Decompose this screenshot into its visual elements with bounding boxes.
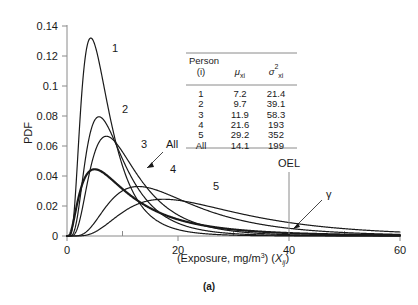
gamma-annotation: γ — [293, 188, 332, 229]
stats-table: Person (i) μxi σ2xi 17.221.429.739.1311.… — [186, 53, 297, 151]
table-cell-mu-5: 14.1 — [231, 140, 250, 151]
x-axis-title-mid: ) ( — [265, 252, 276, 264]
oel-marker: OEL — [278, 157, 300, 234]
table-cell-person-5: All — [196, 140, 207, 151]
all-leader-arrow — [147, 162, 154, 168]
table-header-mu-sub: xi — [240, 72, 246, 79]
x-tick-0: 0 — [64, 244, 70, 256]
curve-label-all: All — [166, 138, 178, 150]
y-tick-2: 0.04 — [37, 170, 58, 182]
table-header-sigma: σ2xi — [269, 63, 284, 79]
curve-label-5: 5 — [213, 180, 219, 192]
y-tick-5: 0.1 — [43, 80, 58, 92]
y-tick-0: 0 — [52, 230, 58, 242]
table-header-person-line2: (i) — [197, 66, 205, 77]
y-tick-labels: 00.020.040.060.080.10.120.14 — [37, 20, 58, 242]
x-axis-title-main: (Exposure, mg/m — [177, 252, 261, 264]
y-tick-1: 0.02 — [37, 200, 58, 212]
pdf-curve-all — [67, 169, 400, 236]
y-tick-6: 0.12 — [37, 50, 58, 62]
table-header-person-line1: Person — [189, 55, 219, 66]
curve-label-2: 2 — [122, 103, 128, 115]
oel-label: OEL — [278, 157, 300, 169]
y-axis-title: PDF — [22, 122, 34, 144]
y-tick-7: 0.14 — [37, 20, 58, 32]
y-tick-3: 0.06 — [37, 140, 58, 152]
table-header-mu: μxi — [234, 66, 246, 79]
pdf-chart: 00.020.040.060.080.10.120.14 0204060 PDF… — [0, 0, 418, 305]
gamma-label: γ — [326, 188, 332, 200]
x-tick-3: 60 — [394, 244, 406, 256]
y-tick-4: 0.08 — [37, 110, 58, 122]
table-cell-var-5: 199 — [268, 140, 284, 151]
figure-caption: (a) — [203, 281, 215, 292]
pdf-curve-3 — [67, 136, 400, 236]
curve-label-3: 3 — [141, 138, 147, 150]
x-axis-title: (Exposure, mg/m3) (Xij) — [177, 252, 289, 267]
table-header-sigma-sup: 2 — [274, 63, 278, 70]
x-axis-title-end: ) — [285, 252, 289, 264]
figure-container: 00.020.040.060.080.10.120.14 0204060 PDF… — [0, 0, 418, 305]
curve-label-4: 4 — [170, 163, 176, 175]
curve-label-1: 1 — [112, 42, 118, 54]
table-header-sigma-sub: xi — [278, 72, 284, 79]
table-rows: 17.221.429.739.1311.958.3421.6193529.235… — [196, 88, 286, 151]
